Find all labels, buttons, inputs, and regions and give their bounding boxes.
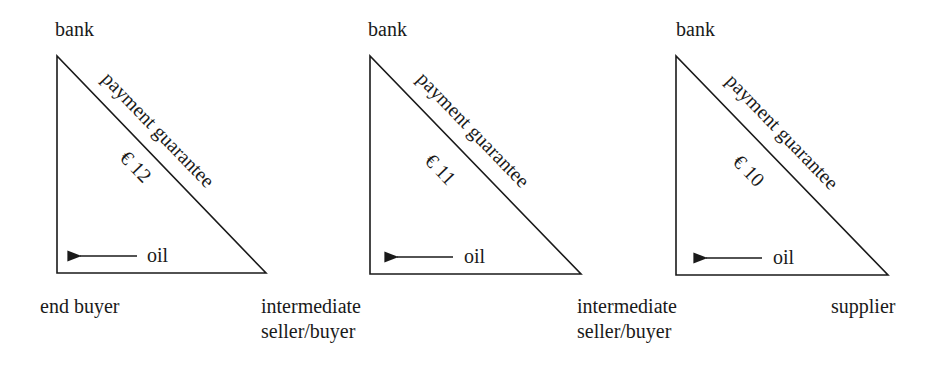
oil-trade-chain-diagram: bank payment guarantee € 12 oil end buye… — [0, 0, 948, 368]
intermediate-label-1-line1: intermediate — [261, 295, 361, 317]
bank-label-3: bank — [676, 18, 715, 40]
intermediate-label-2-line2: seller/buyer — [577, 320, 671, 342]
intermediate-label-2-line1: intermediate — [577, 295, 677, 317]
triangle-1 — [57, 56, 266, 273]
intermediate-label-1-line2: seller/buyer — [261, 320, 355, 342]
triangle-2 — [370, 56, 581, 274]
bank-label-2: bank — [368, 18, 407, 40]
supplier-label: supplier — [831, 295, 895, 317]
oil-label-2: oil — [464, 245, 485, 267]
triangle-3 — [676, 56, 888, 275]
bank-label-1: bank — [55, 18, 94, 40]
end-buyer-label: end buyer — [40, 295, 119, 317]
oil-label-1: oil — [147, 244, 168, 266]
oil-label-3: oil — [773, 246, 794, 268]
